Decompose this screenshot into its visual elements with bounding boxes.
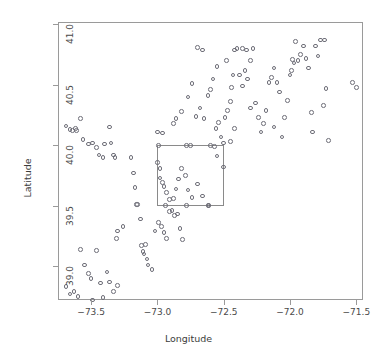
- data-point: [237, 73, 242, 78]
- data-point: [231, 73, 236, 78]
- data-point: [81, 137, 86, 142]
- data-point: [224, 58, 229, 63]
- y-tick: [53, 85, 58, 86]
- data-point: [101, 155, 106, 160]
- data-point: [114, 236, 119, 241]
- y-tick-label: 41.0: [65, 24, 75, 44]
- data-point: [350, 80, 355, 85]
- data-point: [285, 98, 290, 103]
- data-point: [155, 160, 160, 165]
- data-point: [293, 39, 298, 44]
- data-point: [272, 66, 277, 71]
- data-point: [162, 230, 167, 235]
- x-tick: [91, 300, 92, 305]
- data-point: [171, 121, 176, 126]
- data-point: [215, 64, 220, 69]
- x-tick: [356, 300, 357, 305]
- data-point: [111, 289, 116, 294]
- data-point: [142, 252, 147, 257]
- x-axis-title: Longitude: [0, 333, 377, 344]
- data-point: [321, 103, 326, 108]
- x-tick-label: −72.0: [276, 307, 304, 317]
- data-point: [194, 114, 199, 119]
- data-point: [156, 143, 161, 148]
- data-point: [313, 44, 318, 49]
- data-point: [298, 52, 303, 57]
- data-point: [202, 116, 207, 121]
- y-tick-label: 40.5: [65, 85, 75, 105]
- data-point: [223, 115, 228, 120]
- y-tick-label: 39.5: [65, 206, 75, 226]
- data-point: [179, 166, 184, 171]
- y-tick: [53, 145, 58, 146]
- data-point: [74, 128, 79, 133]
- data-point: [296, 58, 301, 63]
- data-point: [155, 130, 160, 135]
- data-point: [232, 126, 237, 131]
- data-point: [208, 87, 213, 92]
- data-point: [240, 84, 245, 89]
- data-point: [216, 120, 221, 125]
- data-point: [107, 125, 112, 130]
- data-point: [259, 130, 264, 135]
- data-point: [143, 242, 148, 247]
- data-point: [133, 185, 138, 190]
- data-point: [228, 99, 233, 104]
- data-point: [306, 66, 311, 71]
- data-point: [267, 80, 272, 85]
- x-tick-label: −72.5: [210, 307, 238, 317]
- data-point: [229, 85, 234, 90]
- data-points-layer: [58, 22, 363, 300]
- data-point: [244, 48, 249, 53]
- data-point: [275, 80, 280, 85]
- data-point: [228, 139, 233, 144]
- data-point: [221, 141, 226, 146]
- data-point: [121, 224, 126, 229]
- x-tick-label: −71.5: [343, 307, 371, 317]
- data-point: [261, 121, 266, 126]
- data-point: [89, 276, 94, 281]
- data-point: [186, 95, 191, 100]
- data-point: [256, 115, 261, 120]
- data-point: [280, 135, 285, 140]
- data-point: [200, 194, 205, 199]
- data-point: [115, 229, 120, 234]
- y-axis-title: Latitude: [22, 158, 33, 197]
- data-point: [183, 173, 188, 178]
- data-point: [159, 224, 164, 229]
- data-point: [198, 106, 203, 111]
- data-point: [115, 283, 120, 288]
- data-point: [272, 125, 277, 130]
- data-point: [174, 116, 179, 121]
- data-point: [184, 203, 189, 208]
- data-point: [113, 155, 118, 160]
- data-point: [248, 106, 253, 111]
- data-point: [253, 101, 258, 106]
- data-point: [289, 68, 294, 73]
- data-point: [211, 77, 216, 82]
- data-point: [171, 196, 176, 201]
- data-point: [160, 131, 165, 136]
- y-tick: [53, 24, 58, 25]
- data-point: [102, 142, 107, 147]
- data-point: [78, 247, 83, 252]
- data-point: [243, 68, 248, 73]
- data-point: [200, 48, 205, 53]
- data-point: [138, 217, 143, 222]
- data-point: [195, 45, 200, 50]
- data-point: [212, 144, 217, 149]
- data-point: [248, 58, 253, 63]
- data-point: [304, 56, 309, 61]
- data-point: [326, 138, 331, 143]
- scatter-plot-figure: −73.5−73.0−72.5−72.0−71.5 39.039.540.040…: [0, 0, 377, 355]
- data-point: [129, 155, 134, 160]
- data-point: [94, 145, 99, 150]
- data-point: [135, 202, 140, 207]
- y-tick-label: 40.0: [65, 145, 75, 165]
- data-point: [264, 108, 269, 113]
- data-point: [310, 130, 315, 135]
- data-point: [150, 267, 155, 272]
- y-tick: [53, 206, 58, 207]
- data-point: [206, 93, 211, 98]
- data-point: [269, 75, 274, 80]
